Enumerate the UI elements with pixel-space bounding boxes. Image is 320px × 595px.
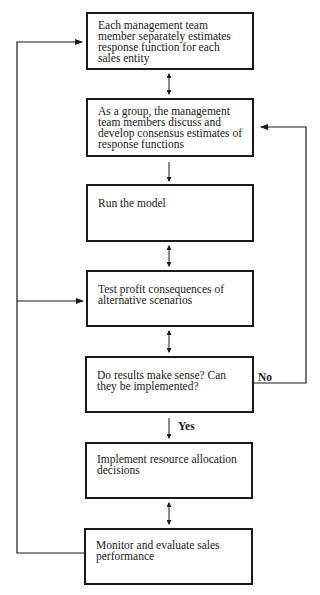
- step-run-model: Run the model: [86, 184, 254, 242]
- edge-label-yes: Yes: [178, 420, 195, 432]
- step-monitor-evaluate: Monitor and evaluate sales performance: [84, 528, 253, 585]
- step-text: Implement resource allocation decisions: [97, 453, 237, 476]
- step-text: Do results make sense? Can they be imple…: [97, 369, 226, 392]
- step-text: Run the model: [98, 197, 166, 209]
- step-group-consensus: As a group, the management team members …: [86, 98, 254, 157]
- step-text: Monitor and evaluate sales performance: [96, 539, 220, 562]
- step-text: Test profit consequences of alternative …: [98, 283, 224, 306]
- step-text: Each management team member separately e…: [98, 19, 231, 64]
- step-text: As a group, the management team members …: [98, 105, 242, 150]
- edge-label-no: No: [258, 371, 272, 383]
- step-test-profit: Test profit consequences of alternative …: [86, 270, 254, 327]
- step-decision-check: Do results make sense? Can they be imple…: [85, 356, 254, 413]
- step-estimate-response-functions: Each management team member separately e…: [86, 12, 254, 70]
- step-implement-allocation: Implement resource allocation decisions: [85, 442, 253, 499]
